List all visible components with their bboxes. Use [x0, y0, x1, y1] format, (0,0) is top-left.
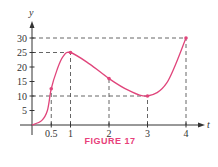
x-tick-label: 1 — [68, 128, 73, 139]
data-point — [69, 51, 73, 55]
data-point — [107, 77, 111, 81]
axes: t y — [20, 7, 210, 135]
y-axis-label: y — [28, 7, 34, 18]
x-tick-label: 4 — [184, 128, 189, 139]
y-tick-label: 25 — [17, 47, 27, 58]
y-axis-arrow-icon — [30, 21, 35, 28]
figure-caption: FIGURE 17 — [84, 136, 135, 146]
x-axis-label: t — [207, 119, 210, 130]
data-point — [146, 94, 150, 98]
x-tick-label: 3 — [145, 128, 150, 139]
axis-ticks: 0.5123451015202530 — [17, 33, 189, 140]
figure-17-chart: t y 0.5123451015202530 FIGURE 17 — [0, 0, 218, 167]
dashed-guide-lines — [32, 38, 186, 125]
y-tick-label: 30 — [17, 33, 27, 44]
data-point — [184, 36, 188, 40]
y-tick-label: 5 — [22, 105, 27, 116]
y-tick-label: 15 — [17, 76, 27, 87]
y-tick-label: 20 — [17, 62, 27, 73]
data-point — [49, 87, 53, 91]
x-axis-arrow-icon — [198, 123, 205, 128]
y-tick-label: 10 — [17, 91, 27, 102]
x-tick-label: 0.5 — [45, 128, 58, 139]
